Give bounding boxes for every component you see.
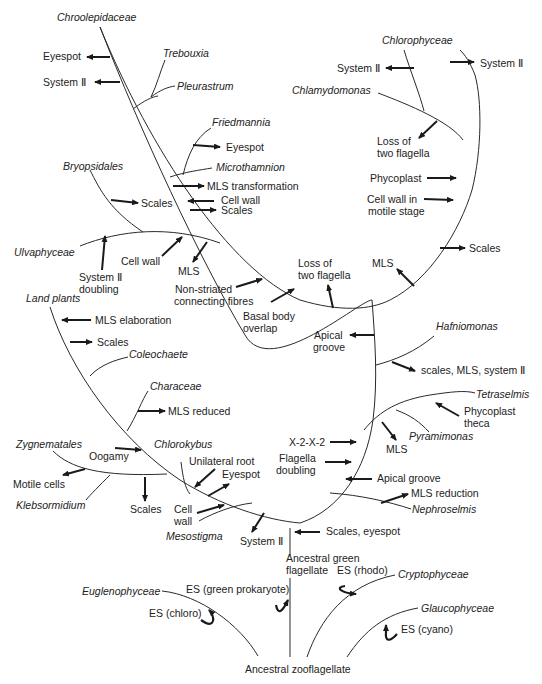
es-rhodo-curl-arrow [340, 586, 356, 594]
character-label: motile stage [368, 205, 425, 217]
character-label: Cell wall in [367, 193, 417, 205]
es-green-prok-curl-arrow [276, 600, 288, 611]
character-label: Ancestral green [286, 552, 360, 564]
character-label: MLS elaboration [95, 314, 172, 326]
branch-hafniomonas [376, 336, 434, 365]
arrow-eyespot-chlorok [208, 484, 229, 496]
character-label: Eyespot [226, 141, 264, 153]
character-label: two flagella [377, 147, 430, 159]
character-label: Scales, eyespot [326, 525, 400, 537]
character-label: Eyespot [222, 468, 260, 480]
branch-mesostigma [199, 503, 252, 521]
branch-friedmannia [183, 128, 211, 175]
character-label: Motile cells [13, 478, 65, 490]
taxon-label: Microthamnion [216, 161, 285, 173]
taxon-label: Coleochaete [129, 348, 188, 360]
arrow-cell-wall-bottom [197, 505, 224, 513]
arrow-motile-cells [63, 469, 85, 475]
character-label: Cell wall [121, 255, 160, 267]
character-label: connecting fibres [174, 295, 253, 307]
taxon-label: Chlorokybus [154, 438, 213, 450]
taxon-label: Friedmannia [212, 116, 271, 128]
taxon-label: Cryptophyceae [398, 568, 469, 580]
character-label: ES (green prokaryote) [186, 583, 289, 595]
character-label: Basal body [243, 310, 296, 322]
taxon-label: Ulvaphyceae [14, 246, 75, 258]
branch-klebsormidium [86, 475, 110, 500]
arrow-unilateral-root [195, 469, 215, 487]
character-label: System Ⅱ [337, 62, 380, 74]
taxon-label: Klebsormidium [16, 499, 86, 511]
character-label: Flagella [279, 452, 316, 464]
taxon-label: Tetraselmis [476, 388, 530, 400]
arrow-phycoplast-theca [436, 403, 459, 416]
character-label: Cell [174, 503, 192, 515]
character-label: MLS [372, 257, 394, 269]
character-label: two flagella [298, 269, 351, 281]
taxon-label: Pleurastrum [177, 80, 234, 92]
taxon-label: Land plants [26, 292, 81, 304]
tree-canvas: Chroolepidaceae Trebouxia Pleurastrum Fr… [0, 0, 542, 684]
character-label: doubling [79, 283, 119, 295]
branch-ulvaphyceae [80, 232, 220, 246]
character-label: Non-striated [175, 283, 232, 295]
taxon-label: Mesostigma [166, 530, 223, 542]
character-label: Apical groove [377, 472, 441, 484]
branch-nephroselmis [330, 493, 411, 509]
character-label: System Ⅱ [240, 535, 283, 547]
character-label: wall [173, 515, 192, 527]
character-label: System Ⅱ [79, 271, 122, 283]
character-label: Apical [314, 329, 343, 341]
character-label: Eyespot [43, 50, 81, 62]
arrow-scales-bryop [111, 200, 138, 203]
taxon-label: Hafniomonas [436, 320, 499, 332]
character-label: scales, MLS, system Ⅱ [421, 364, 525, 376]
character-label: ES (chloro) [149, 607, 202, 619]
taxon-label: Glaucophyceae [421, 602, 494, 614]
character-label: Scales [130, 503, 162, 515]
arrow-system2-bottom [252, 513, 264, 532]
character-label: doubling [276, 464, 316, 476]
character-label: groove [313, 341, 345, 353]
taxon-label: Chroolepidaceae [57, 11, 137, 23]
taxon-label: Trebouxia [163, 47, 209, 59]
arrow-scales-mls-system2 [392, 362, 415, 371]
character-label: MLS reduced [168, 405, 231, 417]
character-label: Scales [97, 336, 129, 348]
es-cyano-curl-arrow [386, 625, 397, 640]
branch-coleochaete [90, 357, 128, 376]
character-label: MLS [178, 265, 200, 277]
character-label: System Ⅱ [480, 57, 523, 69]
character-label: X-2-X-2 [289, 436, 325, 448]
taxon-label: Chlamydomonas [292, 84, 372, 96]
taxon-label: Pyramimonas [409, 430, 474, 442]
branch-pyramimonas [396, 410, 429, 432]
arrow-cell-wall-motile [424, 199, 453, 200]
arrow-system2-doubling [102, 236, 105, 270]
taxon-label: Euglenophyceae [82, 585, 160, 597]
character-label: flagellate [286, 564, 328, 576]
branch-trebouxia [151, 60, 165, 97]
arrow-eyespot-fried [193, 145, 220, 147]
branch-cryptophyceae [307, 575, 395, 657]
phylogeny-diagram: Chroolepidaceae Trebouxia Pleurastrum Fr… [0, 0, 542, 684]
character-label: Oogamy [89, 450, 129, 462]
taxon-label: Chlorophyceae [382, 34, 453, 46]
arrow-mls-ulva [193, 242, 207, 262]
branch-microthamnion [170, 168, 212, 177]
character-label: Unilateral root [189, 455, 254, 467]
character-label: Loss of [298, 257, 332, 269]
taxon-label: Nephroselmis [412, 503, 477, 515]
arrow-cell-wall-ulva [162, 237, 182, 256]
arrow-mls-pyram [382, 422, 396, 440]
taxon-label: Characeae [150, 380, 202, 392]
character-label: Scales [469, 242, 501, 254]
es-chloro-curl-arrow [201, 610, 213, 624]
character-label: MLS transformation [207, 180, 299, 192]
arrow-loss-flagella-mid [328, 285, 333, 308]
character-label: MLS reduction [411, 487, 479, 499]
arrow-loss-flagella-chlamy [419, 121, 437, 138]
character-label: overlap [243, 322, 278, 334]
root-label: Ancestral zooflagellate [245, 663, 351, 675]
taxon-label: Bryopsidales [63, 160, 124, 172]
